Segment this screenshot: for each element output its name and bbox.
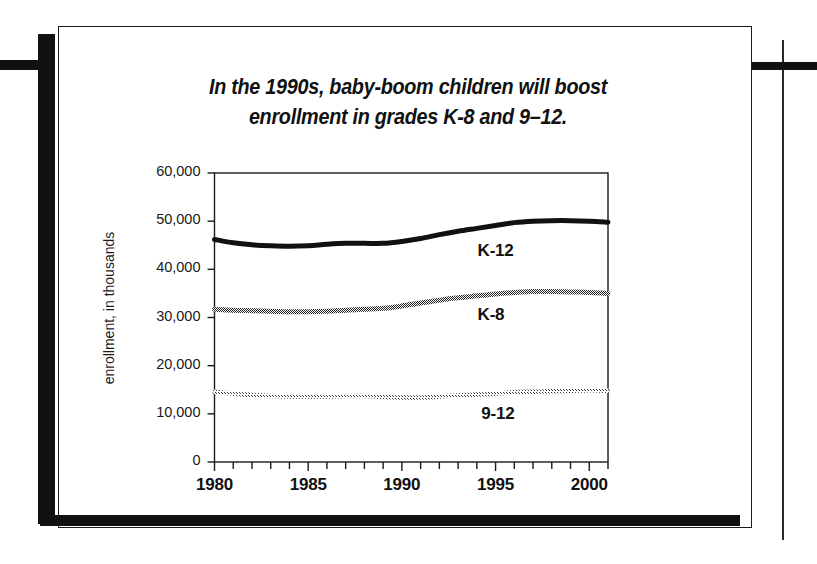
series-line-k-12 [215, 221, 609, 247]
series-label-9-12: 9-12 [481, 404, 514, 424]
plot-frame [215, 173, 609, 462]
line-chart: 010,00020,00030,00040,00050,00060,000 19… [0, 0, 817, 564]
y-tick-label: 20,000 [103, 356, 201, 372]
x-tick-label: 1990 [357, 475, 447, 495]
series-label-k-8: K-8 [478, 305, 505, 325]
x-tick-label: 1980 [170, 475, 260, 495]
x-tick-label: 2000 [544, 475, 634, 495]
x-tick-label: 1995 [451, 475, 541, 495]
y-tick-label: 40,000 [103, 259, 201, 275]
series-line-9-12 [215, 390, 609, 397]
y-tick-label: 30,000 [103, 308, 201, 324]
series-label-k-12: K-12 [478, 241, 514, 261]
data-series-group [215, 221, 609, 398]
y-axis-title: enrollment, in thousands [101, 188, 117, 428]
y-tick-label: 0 [103, 452, 201, 468]
y-tick-label: 50,000 [103, 211, 201, 227]
x-tick-label: 1985 [263, 475, 353, 495]
axis-tick-marks [208, 173, 609, 471]
y-tick-label: 10,000 [103, 404, 201, 420]
y-tick-label: 60,000 [103, 163, 201, 179]
series-line-k-8 [215, 291, 609, 311]
